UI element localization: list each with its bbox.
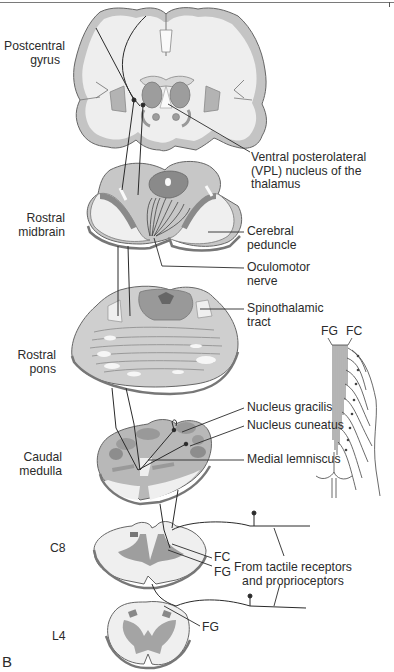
label-line: Postcentral xyxy=(4,40,60,54)
l4-spinal-cord-section xyxy=(106,602,190,669)
callout-nucleus-cuneatus: Nucleus cuneatus xyxy=(247,419,344,433)
callout-line: tract xyxy=(247,316,324,330)
callout-c8-fg: FG xyxy=(214,566,231,580)
label-line: medulla xyxy=(4,465,62,479)
callout-line: nerve xyxy=(247,275,310,289)
callout-cerebral-peduncle: Cerebral peduncle xyxy=(247,225,296,252)
label-l4: L4 xyxy=(52,630,66,644)
label-c8: C8 xyxy=(50,542,66,556)
callout-c8-fc: FC xyxy=(214,551,230,565)
label-line: midbrain xyxy=(4,226,65,240)
inset-label-fc: FC xyxy=(346,325,362,339)
label-rostral-midbrain: Rostral midbrain xyxy=(4,212,65,239)
callout-line: (VPL) nucleus of the xyxy=(251,165,366,179)
inset-label-fg: FG xyxy=(321,325,338,339)
callout-nucleus-gracilis: Nucleus gracilis xyxy=(247,401,332,415)
callout-line: Oculomotor xyxy=(247,261,310,275)
coronal-brain-section xyxy=(74,8,267,151)
callout-line: From tactile receptors xyxy=(234,561,352,575)
label-line: pons xyxy=(4,363,56,377)
label-line: gyrus xyxy=(4,54,60,68)
callout-oculomotor-nerve: Oculomotor nerve xyxy=(247,261,310,288)
rostral-midbrain-section xyxy=(87,161,241,250)
callout-line: Cerebral xyxy=(247,225,296,239)
caudal-medulla-section xyxy=(97,420,211,505)
label-rostral-pons: Rostral pons xyxy=(4,349,56,376)
label-line: Rostral xyxy=(4,212,65,226)
callout-line: Spinothalamic xyxy=(247,302,324,316)
c8-spinal-cord-section xyxy=(94,522,206,589)
callout-line: and proprioceptors xyxy=(234,575,352,589)
callout-spinothalamic-tract: Spinothalamic tract xyxy=(247,302,324,329)
callout-l4-fg: FG xyxy=(202,621,219,635)
rostral-pons-section xyxy=(72,286,238,394)
callout-tactile-receptors: From tactile receptors and proprioceptor… xyxy=(234,561,352,588)
panel-letter: B xyxy=(2,653,12,670)
label-line: Rostral xyxy=(4,349,56,363)
callout-vpl-nucleus: Ventral posterolateral (VPL) nucleus of … xyxy=(251,151,366,192)
label-caudal-medulla: Caudal medulla xyxy=(4,451,62,478)
callout-line: Ventral posterolateral xyxy=(251,151,366,165)
callout-line: peduncle xyxy=(247,239,296,253)
label-line: Caudal xyxy=(4,451,62,465)
callout-medial-lemniscus: Medial lemniscus xyxy=(247,453,340,467)
label-postcentral-gyrus: Postcentral gyrus xyxy=(4,40,60,67)
callout-line: thalamus xyxy=(251,178,366,192)
